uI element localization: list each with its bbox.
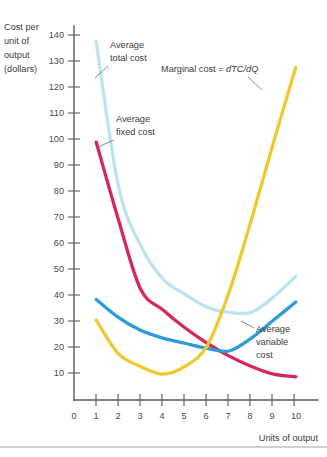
x-tick-label: 7 bbox=[225, 411, 230, 421]
x-tick-label: 3 bbox=[137, 411, 142, 421]
annotation-average-total-cost: Average total cost bbox=[95, 40, 147, 78]
mc-label-prefix: Marginal cost = bbox=[161, 64, 226, 74]
y-tick-label: 20 bbox=[54, 342, 64, 352]
x-tick-label: 9 bbox=[269, 411, 274, 421]
x-tick-label: 6 bbox=[203, 411, 208, 421]
y-axis-tick-labels: 140 130 120 110 100 90 80 70 60 50 40 30… bbox=[49, 30, 64, 378]
x-tick-label: 2 bbox=[115, 411, 120, 421]
atc-label-line: Average bbox=[110, 40, 144, 50]
cost-curves-chart: 140 130 120 110 100 90 80 70 60 50 40 30… bbox=[0, 0, 327, 457]
x-tick-label: 5 bbox=[181, 411, 186, 421]
y-tick-label: 10 bbox=[54, 368, 64, 378]
y-tick-label: 120 bbox=[49, 82, 64, 92]
y-axis-title-line: output bbox=[4, 50, 30, 60]
y-tick-label: 140 bbox=[49, 30, 64, 40]
x-tick-label: 10 bbox=[291, 411, 301, 421]
avc-label-line: variable bbox=[256, 337, 288, 347]
x-tick-label: 0 bbox=[71, 411, 76, 421]
y-tick-label: 80 bbox=[54, 186, 64, 196]
y-tick-label: 100 bbox=[49, 134, 64, 144]
x-tick-label: 4 bbox=[159, 411, 164, 421]
y-axis-title-line: unit of bbox=[4, 36, 29, 46]
y-tick-label: 50 bbox=[54, 264, 64, 274]
y-tick-label: 110 bbox=[49, 108, 64, 118]
x-axis-tick-labels: 0 1 2 3 4 5 6 7 8 9 10 bbox=[71, 411, 301, 421]
x-tick-label: 1 bbox=[93, 411, 98, 421]
avc-label-line: cost bbox=[256, 350, 273, 360]
y-axis-title-line: Cost per bbox=[4, 22, 39, 32]
y-tick-label: 30 bbox=[54, 316, 64, 326]
y-tick-label: 90 bbox=[54, 160, 64, 170]
x-axis-title: Units of output bbox=[259, 433, 319, 443]
x-tick-label: 8 bbox=[247, 411, 252, 421]
avc-label-line: Average bbox=[256, 324, 290, 334]
y-tick-label: 40 bbox=[54, 290, 64, 300]
y-axis-title: Cost per unit of output (dollars) bbox=[4, 22, 39, 74]
y-tick-label: 70 bbox=[54, 212, 64, 222]
afc-label-line: fixed cost bbox=[116, 127, 155, 137]
cost-curves-figure: 140 130 120 110 100 90 80 70 60 50 40 30… bbox=[0, 0, 327, 457]
mc-leader-line bbox=[248, 77, 262, 90]
avc-leader-line bbox=[241, 321, 254, 328]
annotation-marginal-cost: Marginal cost = dTC/dQ bbox=[161, 64, 262, 90]
mc-label: Marginal cost = dTC/dQ bbox=[161, 64, 258, 74]
y-tick-label: 60 bbox=[54, 238, 64, 248]
curve-average-total-cost bbox=[96, 41, 296, 313]
y-axis-title-line: (dollars) bbox=[4, 64, 37, 74]
y-tick-label: 130 bbox=[49, 56, 64, 66]
mc-label-formula: dTC/dQ bbox=[226, 64, 258, 74]
afc-label-line: Average bbox=[116, 114, 150, 124]
atc-label-line: total cost bbox=[110, 53, 147, 63]
